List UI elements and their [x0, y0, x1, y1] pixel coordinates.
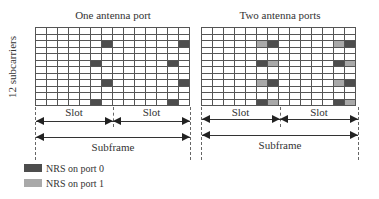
slot-label: Slot — [201, 106, 280, 118]
resource-grid-one-port — [35, 27, 190, 106]
slot-label: Slot — [35, 106, 113, 118]
slot-arrow — [113, 121, 190, 122]
slot-label: Slot — [113, 106, 190, 118]
y-axis-label: 12 subcarriers — [2, 27, 22, 107]
port0-swatch-icon — [24, 164, 42, 172]
legend: NRS on port 0 NRS on port 1 — [24, 162, 104, 192]
port1-swatch-icon — [24, 179, 42, 187]
slot-arrow — [36, 121, 113, 122]
subframe-arrow — [202, 135, 358, 136]
subframe-label: Subframe — [201, 139, 359, 151]
legend-item-port1: NRS on port 1 — [24, 177, 104, 189]
subframe-arrow — [36, 137, 190, 138]
subframe-label: Subframe — [35, 141, 191, 153]
resource-grid-two-ports — [201, 27, 356, 106]
panel-title-one-port: One antenna port — [35, 9, 191, 21]
slot-label: Slot — [280, 106, 358, 118]
legend-item-port0: NRS on port 0 — [24, 162, 104, 174]
slot-arrow — [280, 119, 358, 120]
panel-title-two-ports: Two antenna ports — [201, 9, 359, 21]
boundary-line — [358, 107, 359, 160]
slot-arrow — [202, 119, 280, 120]
